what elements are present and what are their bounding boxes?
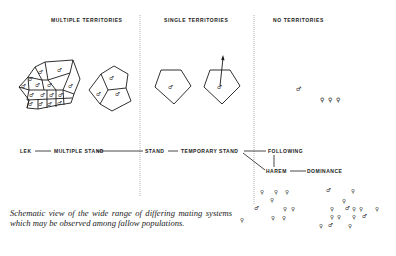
- multiple-stand-shape: [89, 66, 131, 111]
- svg-text:♀: ♀: [330, 206, 334, 212]
- svg-text:♀: ♀: [342, 198, 346, 204]
- svg-text:♂: ♂: [96, 91, 101, 97]
- svg-text:♀: ♀: [359, 206, 363, 212]
- svg-text:♂: ♂: [57, 100, 62, 106]
- figure-caption: Schematic view of the wide range of diff…: [10, 208, 232, 229]
- single-territory-pentagon: [155, 70, 191, 104]
- label-temporary-stand: TEMPORARY STAND: [181, 148, 238, 154]
- svg-text:♀: ♀: [270, 197, 274, 203]
- single-territory-male-icon: ♂: [168, 84, 173, 90]
- label-harem: HAREM: [266, 168, 287, 174]
- arrow-icon: [220, 55, 225, 86]
- svg-text:♂: ♂: [29, 92, 34, 98]
- label-lek: LEK: [20, 148, 32, 154]
- svg-text:♂: ♂: [68, 83, 73, 89]
- svg-text:♂: ♂: [40, 92, 45, 98]
- svg-text:♀: ♀: [336, 96, 340, 103]
- svg-text:♂: ♂: [28, 101, 33, 107]
- svg-text:♂: ♂: [345, 205, 350, 211]
- svg-text:♂: ♂: [21, 83, 26, 89]
- svg-text:♂: ♂: [109, 75, 114, 81]
- svg-text:♀: ♀: [271, 215, 275, 221]
- svg-text:♀: ♀: [352, 206, 356, 212]
- svg-text:♀: ♀: [330, 214, 334, 220]
- svg-text:♀: ♀: [285, 189, 289, 195]
- temporary-stand-pentagon: [204, 70, 240, 104]
- svg-text:♀: ♀: [352, 214, 356, 220]
- svg-text:♂: ♂: [326, 187, 331, 193]
- svg-text:♀: ♀: [274, 189, 278, 195]
- svg-text:♀: ♀: [282, 215, 286, 221]
- label-following: FOLLOWING: [268, 148, 303, 154]
- svg-text:♀: ♀: [319, 223, 323, 229]
- svg-text:♂: ♂: [38, 101, 43, 107]
- svg-text:♀: ♀: [337, 214, 341, 220]
- svg-text:♂: ♂: [35, 82, 40, 88]
- svg-text:♀: ♀: [291, 206, 295, 212]
- temporary-stand-male-icon: ♂: [217, 84, 222, 90]
- svg-text:♀: ♀: [351, 188, 355, 194]
- svg-text:♀: ♀: [375, 206, 379, 212]
- svg-text:♀: ♀: [240, 217, 244, 223]
- svg-text:♀: ♀: [328, 96, 332, 103]
- svg-text:♂: ♂: [57, 67, 62, 73]
- svg-text:♀: ♀: [320, 96, 324, 103]
- svg-text:♂: ♂: [115, 91, 120, 97]
- svg-text:♀: ♀: [283, 206, 287, 212]
- label-multiple-stand: MULTIPLE STAND: [54, 148, 104, 154]
- no-territories-symbols: ♂ ♀ ♀ ♀: [296, 85, 340, 103]
- svg-text:♂: ♂: [362, 213, 367, 219]
- multiple-stand-male-symbols: ♂♂♂: [96, 75, 120, 97]
- svg-text:♂: ♂: [47, 101, 52, 107]
- harem-cluster-symbols: ♀♀♀ ♀ ♂ ♀♀ ♀ ♀♀: [240, 189, 295, 223]
- svg-text:♂: ♂: [28, 76, 33, 82]
- svg-text:♂: ♂: [47, 82, 52, 88]
- svg-text:♂: ♂: [38, 69, 43, 75]
- svg-text:♀: ♀: [348, 223, 352, 229]
- svg-text:♀: ♀: [260, 189, 264, 195]
- label-dominance: DOMINANCE: [307, 168, 342, 174]
- svg-text:♂: ♂: [254, 205, 259, 211]
- dominance-cluster-symbols: ♂♀ ♀ ♂♀♀ ♀ ♀ ♀♀♀♂ ♀♂♀: [319, 187, 379, 229]
- svg-text:♂: ♂: [328, 222, 333, 228]
- svg-text:♂: ♂: [296, 85, 301, 92]
- svg-text:♂: ♂: [49, 92, 54, 98]
- label-stand: STAND: [145, 148, 164, 154]
- svg-text:♂: ♂: [58, 92, 63, 98]
